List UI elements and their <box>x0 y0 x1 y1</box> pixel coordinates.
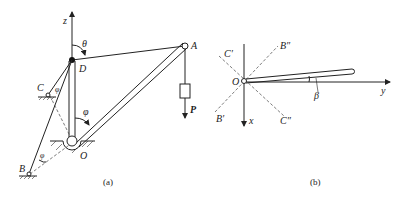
cable-DA <box>72 46 185 60</box>
label-P: P <box>190 104 197 115</box>
label-C-dprime: C″ <box>280 115 292 126</box>
theta-label: θ <box>82 38 87 49</box>
origin-O <box>242 79 247 84</box>
label-B-prime: B′ <box>216 113 225 124</box>
cable-DC <box>48 60 72 95</box>
figure-a: z θ A P D φ <box>19 12 198 187</box>
label-A: A <box>190 40 198 51</box>
label-C-prime: C′ <box>224 48 234 59</box>
load-block <box>180 84 190 98</box>
label-B: B <box>19 163 25 174</box>
pivot-O <box>67 136 77 146</box>
label-C: C <box>37 82 44 93</box>
boom-lower <box>79 48 187 147</box>
z-axis-label: z <box>62 15 67 26</box>
hinge-B <box>27 172 31 176</box>
boom-b-upper <box>246 69 352 79</box>
figure-b: x y C′ B″ B′ C″ O β (b) <box>215 40 390 187</box>
phi-b-label: φ <box>40 151 45 160</box>
phi-mid-arc <box>75 118 89 125</box>
x-axis-label: x <box>248 115 254 126</box>
dash-C-prime-C-dprime <box>219 56 284 116</box>
beta-arc <box>309 76 310 82</box>
phi-b-arc <box>39 160 46 162</box>
label-D: D <box>78 63 87 74</box>
beta-label: β <box>313 90 319 101</box>
phi-c-label: φ <box>55 85 60 94</box>
boom-b-end <box>352 69 355 74</box>
label-O: O <box>80 150 87 161</box>
caption-b: (b) <box>310 177 321 187</box>
cable-DB <box>29 60 72 174</box>
y-axis-label: y <box>380 85 386 96</box>
joint-A <box>182 43 188 49</box>
label-B-dprime: B″ <box>280 40 291 51</box>
hinge-C <box>46 93 50 97</box>
phi-mid-label: φ <box>83 106 89 117</box>
caption-a: (a) <box>103 177 113 187</box>
diagram-canvas: z θ A P D φ <box>0 0 399 203</box>
label-O-b: O <box>232 76 239 87</box>
